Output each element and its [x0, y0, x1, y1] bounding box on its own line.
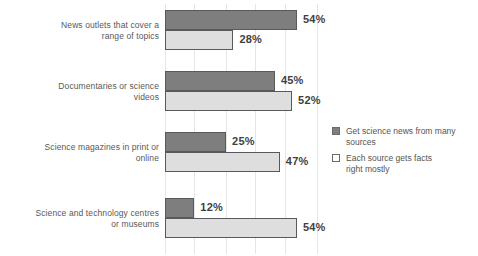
category-label-line2: range of topics: [102, 31, 159, 41]
bar-light: [165, 30, 233, 50]
category-label: News outlets that cover a range of topic…: [4, 20, 159, 42]
bar-value-dark: 25%: [232, 135, 255, 147]
legend-item: Get science news from many sources: [332, 126, 476, 147]
light-swatch-icon: [332, 154, 340, 162]
category-label-line2: videos: [134, 92, 159, 102]
category-label-line2: online: [136, 153, 159, 163]
category-label-line2: or museums: [111, 219, 159, 229]
bar-value-light: 52%: [298, 94, 321, 106]
bar-value-light: 54%: [303, 221, 326, 233]
bar-dark: [165, 10, 297, 30]
bar-dark: [165, 198, 194, 218]
bar-value-light: 47%: [286, 155, 309, 167]
bar-light: [165, 91, 292, 111]
bar-value-dark: 12%: [200, 201, 223, 213]
bar-value-dark: 54%: [303, 13, 326, 25]
category-label: Documentaries or science videos: [4, 81, 159, 103]
dark-swatch-icon: [332, 127, 340, 135]
chart-legend: Get science news from many sources Each …: [332, 126, 476, 180]
bar-dark: [165, 132, 226, 152]
legend-label-line1: Get science news from many: [346, 126, 476, 137]
bar-value-dark: 45%: [281, 74, 304, 86]
category-label-line1: Science magazines in print or: [45, 142, 159, 152]
category-label: Science and technology centres or museum…: [4, 208, 159, 230]
horizontal-bar-chart: News outlets that cover a range of topic…: [0, 0, 478, 256]
bar-value-light: 28%: [239, 33, 262, 45]
category-label-line1: News outlets that cover a: [61, 20, 159, 30]
bar-dark: [165, 71, 275, 91]
legend-item: Each source gets facts right mostly: [332, 153, 476, 174]
bar-light: [165, 152, 280, 172]
category-label: Science magazines in print or online: [4, 142, 159, 164]
legend-label-line2: sources: [346, 137, 476, 148]
legend-label-line1: Each source gets facts: [346, 153, 476, 164]
category-label-line1: Science and technology centres: [36, 208, 160, 218]
category-label-line1: Documentaries or science: [58, 81, 159, 91]
bar-light: [165, 218, 297, 238]
legend-label-line2: right mostly: [346, 164, 476, 175]
